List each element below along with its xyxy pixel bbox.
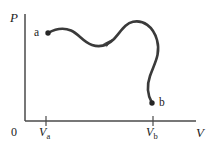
tick-label-vb: Vb bbox=[146, 126, 158, 138]
tick-label-va: Va bbox=[39, 126, 50, 138]
point-marker-b bbox=[149, 100, 154, 105]
tick-label-vb-subscript: b bbox=[154, 131, 158, 141]
point-label-a: a bbox=[34, 27, 39, 39]
tick-label-va-subscript: a bbox=[47, 131, 51, 141]
point-marker-a bbox=[45, 30, 50, 35]
y-axis-label: P bbox=[10, 11, 18, 24]
tick-label-vb-main: V bbox=[146, 125, 153, 139]
process-curve bbox=[48, 21, 158, 103]
plot-canvas bbox=[0, 0, 214, 148]
pv-diagram-figure: P V 0 Va Vb a b bbox=[0, 0, 214, 148]
tick-label-va-main: V bbox=[39, 125, 46, 139]
origin-label: 0 bbox=[11, 126, 17, 138]
x-axis-label: V bbox=[196, 126, 204, 139]
point-label-b: b bbox=[159, 97, 165, 109]
